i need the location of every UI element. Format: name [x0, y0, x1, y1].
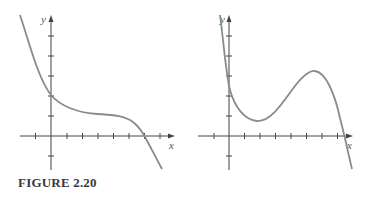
- left-y-axis-label: y: [40, 13, 46, 25]
- figure-canvas: y x y x: [0, 0, 371, 200]
- left-curve: [20, 15, 162, 169]
- left-x-axis-label: x: [168, 139, 174, 151]
- right-y-axis-arrow-icon: [227, 15, 232, 22]
- left-y-axis-arrow-icon: [49, 15, 54, 22]
- left-x-axis-arrow-icon: [168, 134, 175, 139]
- figure-caption: FIGURE 2.20: [18, 175, 97, 191]
- right-x-axis-arrow-icon: [346, 134, 353, 139]
- left-graph: y x: [20, 13, 175, 170]
- right-graph: y x: [198, 13, 353, 170]
- right-curve: [220, 15, 352, 169]
